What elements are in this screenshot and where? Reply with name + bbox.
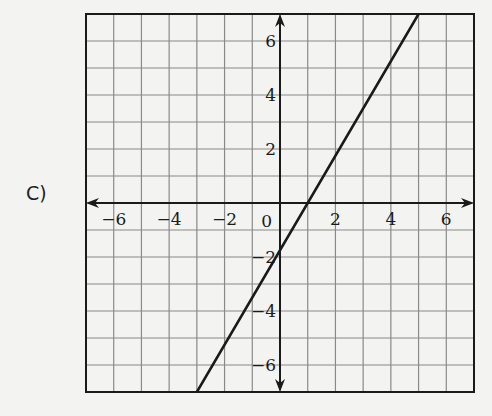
x-tick-label: −4 xyxy=(157,209,182,229)
y-tick-label: 4 xyxy=(265,85,276,105)
x-tick-label: 4 xyxy=(385,209,396,229)
y-tick-label: 2 xyxy=(265,139,276,159)
coordinate-plane: −6−4−2246−6−4−22460 xyxy=(0,0,492,416)
x-tick-label: −2 xyxy=(212,209,237,229)
y-tick-label: −4 xyxy=(251,301,276,321)
axes xyxy=(86,14,474,392)
y-tick-label: 6 xyxy=(265,31,276,51)
x-tick-label: 2 xyxy=(330,209,341,229)
y-tick-label: −6 xyxy=(251,355,276,375)
x-tick-label: −6 xyxy=(101,209,126,229)
origin-label: 0 xyxy=(261,211,272,231)
x-tick-label: 6 xyxy=(441,209,452,229)
